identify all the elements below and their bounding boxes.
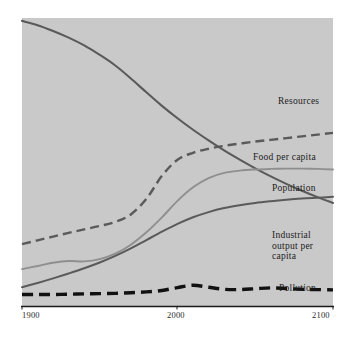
x-axis-tick-2000: 2000	[167, 311, 185, 320]
x-axis-tick-2100: 2100	[312, 311, 330, 320]
series-label-resources: Resources	[278, 96, 319, 107]
x-axis-tick-1900: 1900	[22, 311, 40, 320]
series-label-population: Population	[272, 183, 316, 194]
series-label-industrial-line3: capita	[272, 251, 296, 261]
series-label-pollution: Pollution	[279, 283, 316, 294]
limits-to-growth-chart	[0, 0, 354, 346]
series-label-industrial-line2: output per	[272, 241, 313, 251]
series-label-industrial-line1: Industrial	[272, 230, 311, 240]
series-label-industrial-output: Industrial output per capita	[272, 230, 334, 262]
series-label-food-per-capita: Food per capita	[253, 152, 316, 163]
chart-figure: 1900 2000 2100 Resources Food per capita…	[0, 0, 354, 346]
